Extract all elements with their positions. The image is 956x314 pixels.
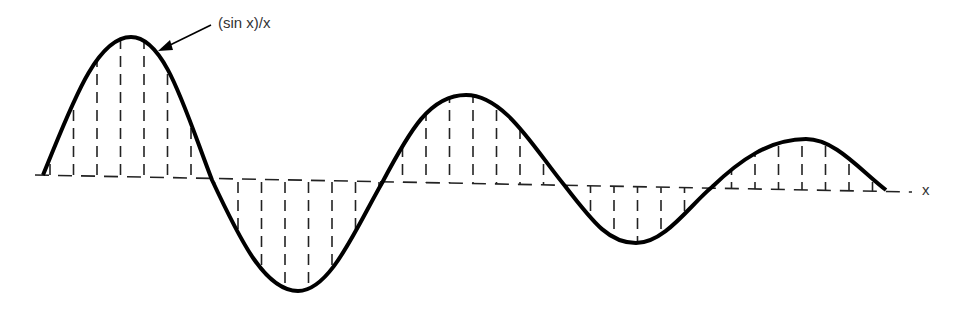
sinc-curve	[43, 37, 886, 291]
axis-label-x: x	[922, 181, 930, 198]
hatch-lines	[50, 20, 873, 300]
curve-label: (sin x)/x	[218, 14, 271, 31]
x-axis	[35, 175, 912, 192]
arrow-head-icon	[158, 40, 173, 51]
label-arrow	[166, 25, 211, 47]
sinc-diagram	[0, 0, 956, 314]
